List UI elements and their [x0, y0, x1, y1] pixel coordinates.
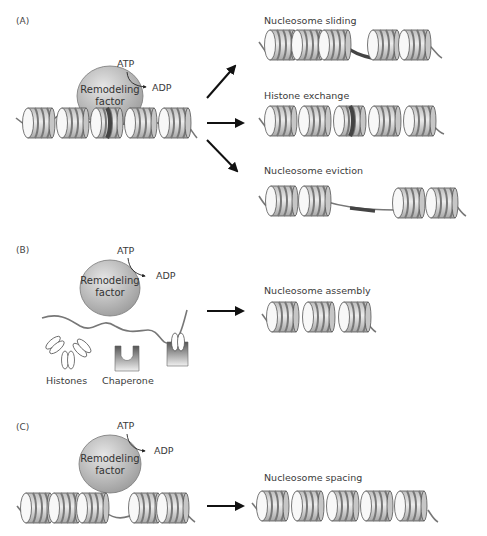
nucleosome — [265, 106, 298, 136]
atp-label: ATP — [117, 58, 135, 69]
chaperone-label: Chaperone — [102, 375, 154, 386]
dna-strand — [430, 46, 442, 58]
chaperone — [115, 346, 139, 371]
factor-label-line2: factor — [95, 96, 125, 107]
nucleosome — [395, 491, 428, 521]
nucleosome — [319, 30, 352, 60]
factor-label-line1: Remodeling — [80, 453, 139, 464]
nucleosome — [399, 30, 432, 60]
outcome-eviction-label: Nucleosome eviction — [264, 165, 363, 176]
adp-label: ADP — [156, 270, 176, 281]
chromatin-remodeling-diagram: (A) Remodeling factor ATP ADP Nucleosome… — [0, 0, 487, 536]
outcome-exchange-label: Histone exchange — [264, 90, 349, 101]
panel-label-c: (C) — [16, 422, 29, 432]
outcome-sliding-label: Nucleosome sliding — [264, 15, 356, 26]
nucleosome — [327, 491, 360, 521]
nucleosome — [369, 106, 402, 136]
nucleosome — [157, 493, 190, 523]
nucleosome — [361, 491, 394, 521]
arrow-to-sliding — [207, 66, 235, 98]
adp-label: ADP — [154, 445, 174, 456]
nucleosome — [57, 108, 90, 138]
nucleosome — [404, 106, 437, 136]
nucleosome — [23, 108, 56, 138]
nucleosome — [299, 106, 332, 136]
outcome-assembly-label: Nucleosome assembly — [264, 285, 371, 296]
atp-label: ATP — [117, 245, 135, 256]
factor-label-line1: Remodeling — [80, 84, 139, 95]
nucleosome — [266, 186, 299, 216]
nucleosome — [77, 493, 110, 523]
nucleosome — [393, 188, 426, 218]
nucleosome — [159, 108, 192, 138]
histone-pair — [62, 351, 75, 369]
nucleosome — [303, 302, 336, 332]
panel-label-b: (B) — [16, 245, 29, 255]
factor-label-line2: factor — [95, 287, 125, 298]
factor-label-line2: factor — [95, 465, 125, 476]
panel-b: (B) Remodeling factor ATP ADP Histones C… — [16, 245, 376, 386]
nucleosome — [125, 108, 158, 138]
nucleosome — [339, 302, 372, 332]
nucleosome-exchanged — [334, 106, 367, 136]
outcome-spacing-label: Nucleosome spacing — [264, 472, 362, 483]
nucleosome — [426, 188, 459, 218]
panel-c: (C) Remodeling factor ATP ADP Nucleosome… — [16, 420, 438, 523]
nucleosome — [267, 302, 300, 332]
nucleosome — [292, 491, 325, 521]
panel-label-a: (A) — [16, 16, 29, 26]
panel-a: (A) Remodeling factor ATP ADP Nucleosome… — [16, 15, 466, 218]
remodeling-factor — [79, 435, 141, 493]
adp-label: ADP — [152, 82, 172, 93]
nucleosome — [299, 186, 332, 216]
histones-label: Histones — [46, 375, 87, 386]
exposed-dna — [350, 208, 375, 211]
arrow-to-eviction — [207, 140, 237, 171]
factor-label-line1: Remodeling — [80, 275, 139, 286]
atp-label: ATP — [117, 420, 135, 431]
nucleosome — [368, 30, 401, 60]
nucleosome — [257, 491, 290, 521]
nucleosome-targeted — [91, 108, 124, 138]
